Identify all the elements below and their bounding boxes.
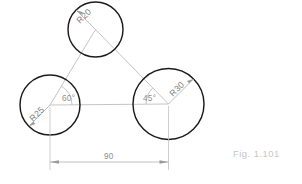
dimension-arrow-left — [50, 160, 59, 164]
dimension-arrow-right — [160, 160, 169, 164]
dimension-90: 90 — [50, 106, 169, 170]
angle-label-right: 45° — [143, 94, 156, 103]
right-to-top-construction-line — [96, 30, 169, 105]
radius-label-left: R25 — [27, 104, 46, 123]
radius-labels: R20 R25 R30 — [27, 6, 186, 123]
figure-caption: Fig. 1.101 — [233, 148, 280, 159]
baseline-construction-line — [50, 104, 169, 105]
circle-group — [20, 2, 204, 140]
dimension-label-90: 90 — [104, 152, 114, 161]
radius-label-right: R30 — [167, 79, 186, 98]
figure-canvas: R20 R25 R30 60° 45° 90 — [0, 0, 302, 184]
angle-labels: 60° 45° — [62, 94, 156, 103]
angle-label-left: 60° — [62, 94, 75, 103]
engineering-drawing: R20 R25 R30 60° 45° 90 — [0, 0, 302, 184]
